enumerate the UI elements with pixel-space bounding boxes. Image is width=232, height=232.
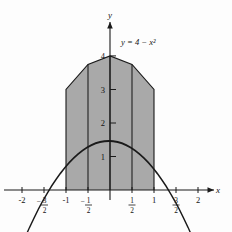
xtick-label-1: 1 <box>152 195 156 205</box>
x-axis-label: x <box>215 185 220 195</box>
xtick-label-3-2-numerator: 3 <box>174 196 178 205</box>
ytick-label-2: 2 <box>101 118 105 128</box>
xtick-label--1-2-numerator: 1 <box>87 196 91 205</box>
math-figure: x y -2 − 3 2 -1 <box>0 0 232 232</box>
xtick-label--3-2-sign: − <box>36 197 40 206</box>
xtick-label--1: -1 <box>62 195 69 205</box>
xtick-label-1-2-numerator: 1 <box>130 196 134 205</box>
xtick-label-1-2: 1 2 <box>129 196 136 215</box>
xtick-label--3-2: − 3 2 <box>36 196 48 215</box>
x-axis-arrowhead <box>208 187 215 193</box>
xtick-label--3-2-denominator: 2 <box>43 206 47 215</box>
equation-label: y = 4 − x² <box>120 37 156 47</box>
xtick-label--1-2-sign: − <box>80 197 84 206</box>
xtick-label--1-2: − 1 2 <box>80 196 92 215</box>
xtick-label-3-2: 3 2 <box>173 196 180 215</box>
ytick-label-1: 1 <box>101 152 105 162</box>
ytick-label-3: 3 <box>101 85 105 95</box>
y-axis-arrowhead <box>107 22 113 29</box>
xtick-label-3-2-denominator: 2 <box>174 206 178 215</box>
xtick-label-1-2-denominator: 2 <box>130 206 134 215</box>
plot-canvas: x y -2 − 3 2 -1 <box>0 0 232 232</box>
xtick-label--3-2-numerator: 3 <box>43 196 47 205</box>
xtick-label--1-2-denominator: 2 <box>87 206 91 215</box>
xtick-label-2: 2 <box>196 195 200 205</box>
y-axis-label: y <box>107 10 112 20</box>
xtick-label--2: -2 <box>18 195 25 205</box>
